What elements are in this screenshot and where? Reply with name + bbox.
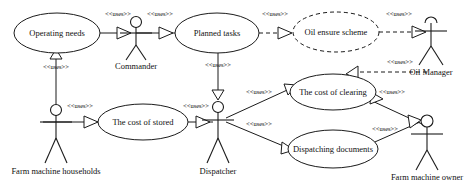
use-case-label: Planned tasks — [194, 28, 241, 38]
rel-stereotype-label: <<uses>> — [372, 125, 398, 132]
rel-operating-needs-commander[interactable]: <<uses>> — [100, 10, 131, 39]
use-case-oil-ensure-scheme[interactable]: Oil ensure scheme — [293, 12, 379, 52]
actor-leg-left — [416, 150, 427, 170]
uml-diagram-svg: <<uses>> <<uses>> <<uses>> <<uses>> <<us… — [0, 0, 474, 187]
rel-stereotype-label: <<uses>> — [147, 10, 173, 17]
use-case-label: Oil ensure scheme — [305, 27, 368, 37]
actor-head-icon — [213, 102, 224, 113]
actor-head-icon — [51, 105, 62, 116]
open-arrow-head — [212, 90, 224, 100]
rel-stereotype-label: <<uses>> — [387, 58, 413, 65]
rel-stereotype-label: <<uses>> — [379, 88, 405, 95]
open-arrow-head — [412, 26, 426, 38]
use-case-label: The cost of stored — [112, 117, 174, 127]
actor-leg-right — [136, 45, 146, 60]
actor-dispatcher[interactable]: Dispatcher — [200, 102, 237, 176]
actor-farm-machine-owner[interactable]: Farm machine owner — [391, 115, 463, 182]
rel-dispatcher-dispatching-documents[interactable]: <<uses>> — [226, 120, 294, 154]
actor-leg-left — [45, 138, 56, 163]
actor-label: Farm machine households — [11, 166, 100, 176]
use-case-dispatching-documents[interactable]: Dispatching documents — [288, 130, 378, 168]
use-case-operating-needs[interactable]: Operating needs — [14, 13, 100, 53]
actor-farm-machine-households[interactable]: Farm machine households — [11, 105, 100, 176]
actor-leg-right — [56, 138, 67, 163]
rel-oil-ensure-oil-manager[interactable]: <<uses>> — [379, 10, 428, 38]
rel-stereotype-label: <<uses>> — [43, 63, 69, 70]
use-case-the-cost-of-stored[interactable]: The cost of stored — [98, 104, 188, 140]
use-case-the-cost-of-clearing[interactable]: The cost of clearing — [290, 74, 376, 110]
rel-dispatcher-cost-of-clearing[interactable]: <<uses>> — [226, 84, 297, 118]
actor-head-icon — [425, 17, 437, 23]
open-arrow-head — [278, 27, 292, 39]
rel-stereotype-label: <<uses>> — [246, 88, 272, 95]
actor-label: Oil Manager — [409, 67, 452, 77]
actor-leg-left — [419, 46, 431, 65]
rel-planned-tasks-dispatcher[interactable]: <<uses>> — [205, 53, 231, 100]
rel-commander-planned-tasks[interactable]: <<uses>> — [136, 10, 175, 39]
rel-stereotype-label: <<uses>> — [386, 10, 412, 17]
use-case-planned-tasks[interactable]: Planned tasks — [175, 13, 259, 53]
use-case-label: Operating needs — [29, 28, 84, 38]
actor-head-icon — [131, 17, 142, 28]
actor-leg-right — [427, 150, 438, 170]
use-case-diagram-canvas: <<uses>> <<uses>> <<uses>> <<uses>> <<us… — [0, 0, 474, 187]
rel-stereotype-label: <<uses>> — [205, 61, 231, 68]
open-arrow-head — [196, 116, 210, 128]
rel-stereotype-label: <<uses>> — [105, 10, 131, 17]
rel-households-operating-needs[interactable]: <<uses>> — [43, 49, 69, 104]
use-case-label: The cost of clearing — [299, 87, 367, 97]
actor-head-icon — [421, 115, 433, 127]
rel-dispatching-documents-owner[interactable]: <<uses>> — [368, 115, 421, 145]
actor-label: Commander — [115, 61, 157, 71]
rel-stereotype-label: <<uses>> — [246, 120, 272, 127]
actor-leg-right — [218, 138, 229, 163]
rel-stereotype-label: <<uses>> — [67, 102, 93, 109]
rel-stereotype-label: <<uses>> — [183, 102, 209, 109]
open-arrow-head — [159, 27, 173, 39]
actor-oil-manager[interactable]: Oil Manager — [409, 17, 452, 77]
rel-planned-tasks-oil-ensure[interactable]: <<uses>> — [259, 10, 292, 39]
actor-commander[interactable]: Commander — [115, 17, 157, 71]
open-arrow-head — [84, 116, 98, 128]
actor-label: Dispatcher — [200, 166, 237, 176]
rel-stereotype-label: <<uses>> — [262, 10, 288, 17]
actor-leg-left — [126, 45, 136, 60]
actor-leg-left — [207, 138, 218, 163]
actor-label: Farm machine owner — [391, 172, 463, 182]
actor-leg-right — [431, 46, 443, 65]
open-arrow-head — [408, 115, 421, 128]
use-case-label: Dispatching documents — [293, 144, 373, 154]
